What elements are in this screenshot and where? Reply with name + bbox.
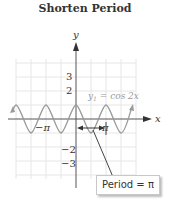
y-tick-3: 3	[66, 71, 72, 82]
x-axis-label: x	[155, 113, 161, 124]
period-callout: Period = π	[96, 175, 160, 195]
y-tick-neg2: −2	[61, 144, 76, 155]
period-arrow-left-icon	[77, 126, 83, 131]
y-axis-label: y	[72, 29, 79, 40]
callout-leader-line	[93, 130, 113, 177]
x-tick-neg-pi: −π	[35, 122, 50, 133]
x-axis-arrow-icon	[143, 116, 152, 122]
y-tick-neg3: −3	[61, 158, 76, 169]
equation-label: y1 = cos 2x	[87, 91, 139, 102]
y-tick-2: 2	[66, 85, 72, 96]
graph: x y 3 2 −2 −3 −π π y1 = cos 2x	[0, 0, 170, 200]
y-axis-arrow-icon	[73, 42, 79, 51]
